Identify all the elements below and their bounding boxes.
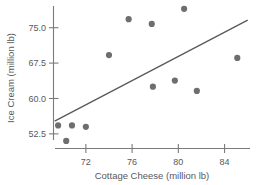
data-point [150,84,156,90]
data-point [55,122,61,128]
x-tick-label: 76 [127,157,137,167]
data-point [234,55,240,61]
y-tick-label: 75.0 [28,23,46,33]
x-tick-label: 84 [220,157,230,167]
data-point [106,52,112,58]
x-tick-label: 80 [173,157,183,167]
regression-line [55,20,248,121]
y-tick-label: 52.5 [28,129,46,139]
y-axis-title: Ice Cream (million lb) [5,33,16,123]
y-tick-label: 67.5 [28,58,46,68]
data-point [83,124,89,130]
data-point [194,88,200,94]
y-tick-label: 60.0 [28,94,46,104]
data-point [126,16,132,22]
chart-svg: 52.560.067.575.0 72768084 Ice Cream (mil… [0,0,260,185]
data-point [69,122,75,128]
x-tick-label: 72 [81,157,91,167]
x-tick-group: 72768084 [81,144,230,167]
data-point [181,6,187,12]
x-axis-title: Cottage Cheese (million lb) [95,170,210,181]
scatter-chart: 52.560.067.575.0 72768084 Ice Cream (mil… [0,0,260,185]
data-point [63,138,69,144]
data-point [149,21,155,27]
data-point [172,77,178,83]
data-point-group [55,6,240,144]
